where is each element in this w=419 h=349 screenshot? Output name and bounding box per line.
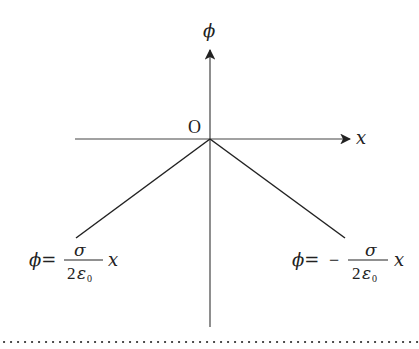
right-formula: ϕ= − σ 2 ε 0 x (292, 240, 404, 284)
svg-text:σ: σ (74, 240, 86, 260)
svg-text:ϕ=: ϕ= (292, 249, 319, 270)
left-formula: ϕ= σ 2 ε 0 x (29, 240, 118, 284)
potential-diagram: ϕ x O ϕ= σ 2 ε 0 x ϕ= − σ 2 ε 0 x (0, 0, 419, 349)
right-potential-line (210, 139, 345, 238)
svg-text:σ: σ (365, 240, 377, 260)
x-axis-label: x (356, 127, 366, 148)
svg-text:0: 0 (372, 273, 377, 284)
svg-text:2: 2 (67, 264, 76, 283)
svg-text:2: 2 (352, 264, 361, 283)
svg-text:ε: ε (77, 263, 86, 283)
svg-text:x: x (394, 249, 404, 270)
svg-text:ϕ=: ϕ= (29, 249, 56, 270)
origin-label: O (188, 117, 201, 137)
svg-text:0: 0 (87, 273, 92, 284)
y-axis-label: ϕ (203, 20, 215, 41)
svg-text:ε: ε (362, 263, 371, 283)
svg-text:x: x (108, 249, 118, 270)
left-potential-line (76, 139, 210, 238)
svg-text:−: − (329, 250, 339, 270)
